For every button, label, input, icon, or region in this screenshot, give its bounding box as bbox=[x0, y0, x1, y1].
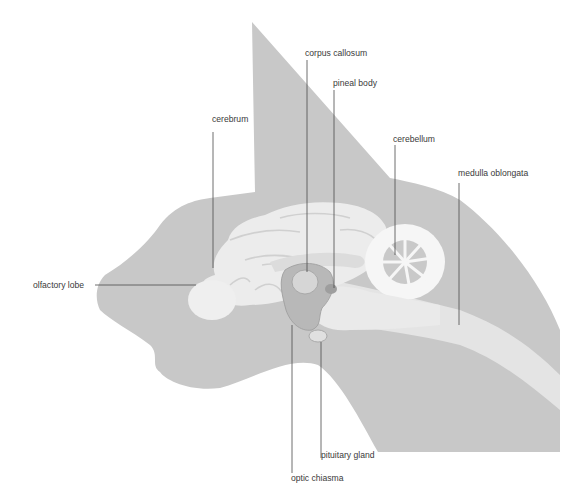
label-cerebrum: cerebrum bbox=[212, 114, 248, 124]
label-optic-chiasma: optic chiasma bbox=[291, 473, 344, 483]
label-pituitary-gland: pituitary gland bbox=[321, 450, 375, 460]
thalamus-mass bbox=[292, 270, 318, 294]
cerebellum-shape bbox=[365, 224, 445, 300]
olfactory-lobe-shape bbox=[188, 280, 236, 320]
label-corpus-callosum: corpus callosum bbox=[305, 48, 367, 58]
cat-brain-diagram: corpus callosum pineal body cerebrum cer… bbox=[0, 0, 579, 503]
pineal-body-shape bbox=[325, 284, 337, 294]
label-cerebellum: cerebellum bbox=[393, 134, 435, 144]
pituitary-gland-shape bbox=[309, 330, 327, 342]
label-medulla-oblongata: medulla oblongata bbox=[458, 168, 528, 178]
label-pineal-body: pineal body bbox=[333, 78, 378, 88]
label-olfactory-lobe: olfactory lobe bbox=[33, 280, 84, 290]
